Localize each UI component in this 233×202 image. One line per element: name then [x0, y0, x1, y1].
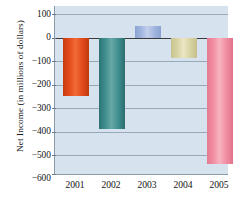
y-tick-label-neg300: −300 [5, 104, 51, 113]
tick-mark-neg500 [52, 155, 56, 156]
gridline-neg500 [55, 155, 228, 156]
bar-2002[interactable] [99, 38, 125, 129]
gridline-neg300 [55, 108, 228, 109]
y-tick-label-100: 100 [5, 10, 51, 19]
gridline-neg400 [55, 132, 228, 133]
tick-mark-neg200 [52, 85, 56, 86]
bar-2001[interactable] [63, 38, 89, 97]
plot-area [54, 6, 228, 175]
tick-mark-neg300 [52, 108, 56, 109]
bar-chart-figure: Net Income (in millions of dollars) 100 … [0, 0, 233, 202]
y-tick-label-neg100: −100 [5, 57, 51, 66]
bar-2005[interactable] [207, 38, 233, 164]
tick-mark-100 [52, 14, 56, 15]
y-tick-label-neg600: −600 [5, 174, 51, 183]
y-tick-label-0: 0 [5, 33, 51, 42]
tick-mark-0 [52, 38, 56, 39]
y-tick-label-neg500: −500 [5, 151, 51, 160]
tick-mark-neg600 [52, 174, 56, 175]
bar-2003[interactable] [135, 26, 161, 38]
tick-mark-neg100 [52, 61, 56, 62]
gridline-100 [55, 14, 228, 15]
y-tick-label-neg400: −400 [5, 127, 51, 136]
tick-mark-neg400 [52, 132, 56, 133]
x-axis-label-2005: 2005 [198, 179, 233, 190]
y-tick-label-neg200: −200 [5, 80, 51, 89]
bar-2004[interactable] [171, 38, 197, 58]
gridline-neg600 [55, 174, 228, 176]
